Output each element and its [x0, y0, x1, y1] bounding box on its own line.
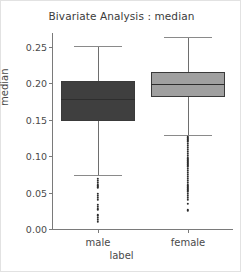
chart-figure: Bivariate Analysis : median 0.000.050.10…	[0, 0, 241, 272]
x-axis-label: label	[1, 250, 241, 261]
x-tick-label-female: female	[171, 237, 205, 248]
whisker-upper-male	[98, 46, 99, 81]
y-tick-label: 0.05	[26, 187, 47, 198]
outlier-point-male	[97, 199, 99, 201]
whisker-cap-upper-male	[74, 46, 123, 47]
outlier-point-female	[187, 209, 189, 211]
y-tick-mark	[49, 229, 53, 230]
x-tick-mark	[98, 229, 99, 233]
outlier-point-female	[187, 199, 189, 201]
outlier-point-male	[97, 220, 99, 222]
x-tick-label-male: male	[86, 237, 111, 248]
y-tick-mark	[49, 47, 53, 48]
outlier-point-male	[97, 208, 99, 210]
y-tick-label: 0.00	[26, 224, 47, 235]
y-tick-mark	[49, 83, 53, 84]
outlier-point-male	[97, 186, 99, 188]
y-axis-label: median	[0, 69, 10, 107]
whisker-cap-lower-male	[74, 175, 123, 176]
y-tick-mark	[49, 120, 53, 121]
whisker-upper-female	[188, 37, 189, 71]
y-axis-spine	[52, 33, 53, 230]
whisker-cap-upper-female	[164, 37, 213, 38]
whisker-lower-male	[98, 121, 99, 175]
y-tick-label: 0.25	[26, 41, 47, 52]
y-tick-label: 0.15	[26, 114, 47, 125]
y-tick-mark	[49, 193, 53, 194]
y-tick-label: 0.10	[26, 151, 47, 162]
x-tick-mark	[188, 229, 189, 233]
plot-area: 0.000.050.100.150.200.25 malefemale	[53, 33, 233, 229]
chart-title: Bivariate Analysis : median	[1, 10, 241, 22]
y-tick-label: 0.20	[26, 78, 47, 89]
whisker-lower-female	[188, 97, 189, 136]
median-line-male	[61, 99, 135, 100]
median-line-female	[151, 84, 225, 85]
y-tick-mark	[49, 156, 53, 157]
box-male	[61, 81, 135, 121]
x-axis-spine	[52, 229, 233, 230]
outlier-point-female	[187, 203, 189, 205]
